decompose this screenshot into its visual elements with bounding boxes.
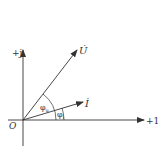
phi-i-label: φi — [57, 110, 65, 120]
phi-u-label: φu — [40, 103, 50, 113]
current-label: İ — [84, 98, 90, 109]
current-phasor — [23, 102, 83, 120]
phasor-diagram: +j +1 O U̇ İ φu φi — [0, 0, 164, 157]
imaginary-axis-label: +j — [12, 48, 22, 58]
voltage-label: U̇ — [79, 45, 88, 56]
real-axis-label: +1 — [146, 116, 159, 126]
origin-label: O — [9, 121, 17, 131]
voltage-phasor — [23, 50, 77, 120]
